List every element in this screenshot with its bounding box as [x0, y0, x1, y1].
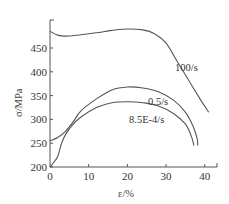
y-tick-label: 450: [31, 42, 48, 54]
x-tick-label: 40: [199, 170, 211, 182]
label-0-5s: 0.5/s: [148, 96, 168, 107]
y-tick-label: 200: [31, 161, 48, 173]
stress-strain-chart: 200250300350400450 010203040 100/s 0.5/s…: [0, 0, 229, 204]
series-line-2: [50, 102, 194, 167]
label-100s: 100/s: [175, 62, 198, 73]
y-tick-label: 300: [31, 113, 48, 125]
series-lines: [50, 29, 209, 167]
y-tick-label: 400: [31, 66, 48, 78]
x-tick-label: 20: [122, 170, 134, 182]
x-tick-label: 30: [161, 170, 173, 182]
y-tick-label: 350: [31, 90, 48, 102]
x-tick-label: 10: [83, 170, 95, 182]
x-tick-label: 0: [47, 170, 53, 182]
axis-lines: [50, 20, 217, 167]
x-axis-label: ε/%: [118, 188, 134, 199]
axes: 200250300350400450 010203040: [31, 20, 218, 182]
series-line-1: [50, 87, 198, 146]
y-axis-label: σ/MPa: [13, 88, 24, 117]
label-8-5e-4s: 8.5E-4/s: [129, 114, 164, 125]
y-tick-label: 250: [31, 137, 48, 149]
